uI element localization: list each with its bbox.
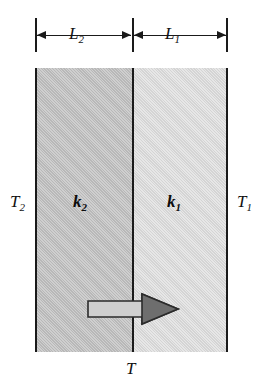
temperature-label-t1: T1 [237,193,252,213]
dimension-arrowhead-l1-right [217,31,226,39]
heat-flow-arrow-head [142,294,178,324]
temperature-label-t2: T2 [10,193,25,213]
dimension-label-l2: L2 [69,25,84,45]
temperature-label-interface: T [126,360,135,380]
temperature-label-interface-base: T [126,359,135,378]
dimension-arrowhead-l1-left [134,31,143,39]
dimension-tick-right [226,18,228,52]
dimension-arrowhead-l2-right [122,31,131,39]
dimension-label-l1-sub: 1 [174,33,180,45]
conductivity-label-k2: k2 [73,193,87,213]
diagram-canvas: L2 L1 k2 k1 T2 T1 T [0,0,271,392]
conductivity-label-k1-sub: 1 [176,201,182,213]
dimension-label-l2-sub: 2 [78,33,84,45]
dimension-label-l1: L1 [165,25,180,45]
dimension-line-l2 [37,35,131,36]
temperature-label-t1-sub: 1 [246,201,252,213]
dimension-arrowhead-l2-left [37,31,46,39]
dimension-line-l1 [134,35,226,36]
conductivity-label-k1-base: k [167,192,176,211]
temperature-label-t2-sub: 2 [19,201,25,213]
conductivity-label-k2-base: k [73,192,82,211]
conductivity-label-k2-sub: 2 [82,201,88,213]
conductivity-label-k1: k1 [167,193,181,213]
heat-flow-arrow-icon [86,292,182,328]
